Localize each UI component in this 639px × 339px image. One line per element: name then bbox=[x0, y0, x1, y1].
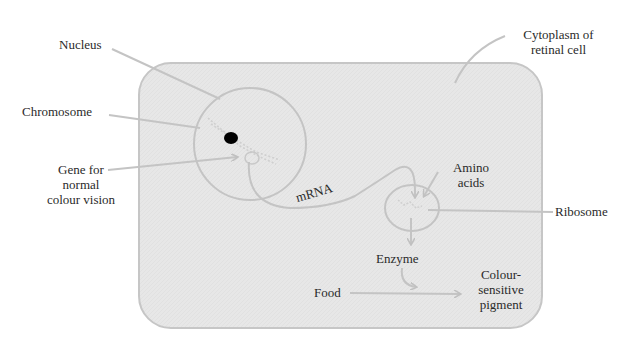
label-pigment-line1: Colour- bbox=[466, 267, 536, 282]
label-chromosome: Chromosome bbox=[22, 104, 92, 119]
label-gene-line3: colour vision bbox=[36, 192, 126, 207]
label-pigment: Colour- sensitive pigment bbox=[466, 267, 536, 312]
label-amino-line2: acids bbox=[446, 175, 496, 190]
label-nucleus: Nucleus bbox=[59, 37, 102, 52]
label-gene-line2: normal bbox=[36, 177, 126, 192]
label-cytoplasm-line1: Cytoplasm of bbox=[506, 27, 611, 42]
label-enzyme: Enzyme bbox=[376, 251, 419, 266]
label-food: Food bbox=[314, 285, 341, 300]
label-gene: Gene for normal colour vision bbox=[36, 162, 126, 207]
label-gene-line1: Gene for bbox=[36, 162, 126, 177]
label-ribosome: Ribosome bbox=[555, 204, 608, 219]
label-cytoplasm-line2: retinal cell bbox=[506, 42, 611, 57]
label-cytoplasm: Cytoplasm of retinal cell bbox=[506, 27, 611, 57]
label-amino-acids: Amino acids bbox=[446, 160, 496, 190]
label-amino-line1: Amino bbox=[446, 160, 496, 175]
label-pigment-line2: sensitive bbox=[466, 282, 536, 297]
chromosome-dot bbox=[224, 132, 238, 144]
label-pigment-line3: pigment bbox=[466, 297, 536, 312]
food-to-pigment-arrow bbox=[350, 293, 460, 294]
